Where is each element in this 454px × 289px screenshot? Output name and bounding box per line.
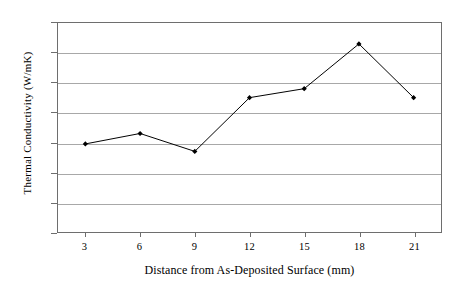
x-tick-label: 15 <box>285 241 325 252</box>
x-tick-label: 3 <box>65 241 105 252</box>
x-tick-label: 9 <box>175 241 215 252</box>
x-tick-label: 18 <box>340 241 380 252</box>
x-tick-mark <box>250 233 251 237</box>
x-tick-label: 12 <box>230 241 270 252</box>
x-tick-mark <box>415 233 416 237</box>
series-markers <box>83 41 416 154</box>
x-tick-mark <box>305 233 306 237</box>
x-tick-label: 6 <box>120 241 160 252</box>
x-axis-title: Distance from As-Deposited Surface (mm) <box>57 263 442 278</box>
x-tick-mark <box>140 233 141 237</box>
y-axis-title: Thermal Conductivity (W/mK) <box>21 23 33 223</box>
x-tick-mark <box>360 233 361 237</box>
data-point-marker <box>137 131 142 136</box>
data-series-layer <box>58 23 441 232</box>
y-tick-mark <box>51 233 57 234</box>
x-tick-mark <box>85 233 86 237</box>
thermal-conductivity-line-chart: 300310320330340350360370 Thermal Conduct… <box>0 0 454 289</box>
x-tick-mark <box>195 233 196 237</box>
data-point-marker <box>83 141 88 146</box>
x-tick-label: 21 <box>395 241 435 252</box>
plot-area <box>57 22 442 233</box>
